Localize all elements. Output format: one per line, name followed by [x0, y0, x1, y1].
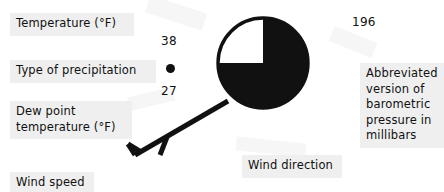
- wind-barb-icon: [0, 0, 444, 192]
- weather-station-model-diagram: Temperature (°F) Type of precipitation D…: [0, 0, 444, 192]
